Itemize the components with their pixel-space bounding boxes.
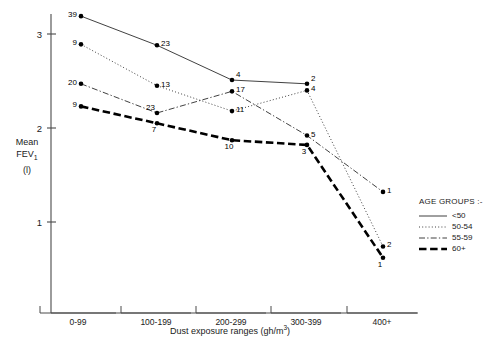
data-point	[155, 111, 160, 116]
data-point	[305, 88, 310, 93]
data-point	[79, 42, 84, 47]
data-point-label: 7	[152, 125, 157, 134]
data-point-label: 23	[161, 39, 170, 48]
data-point-label: 4	[311, 84, 316, 93]
series-line-60+	[81, 106, 383, 257]
data-point-label: 2	[387, 240, 392, 249]
data-point-label: 9	[73, 100, 78, 109]
legend-label: 50-54	[452, 222, 472, 231]
data-point-label: 9	[73, 38, 78, 47]
x-axis-label: Dust exposure ranges (gh/m3)	[100, 324, 360, 336]
legend-label: <50	[452, 211, 466, 220]
x-category-label: 0-99	[69, 317, 86, 327]
x-category-label: 400+	[372, 317, 391, 327]
data-point	[79, 82, 84, 87]
y-tick-label: 2	[37, 123, 42, 134]
y-axis-label-line2: FEV1	[6, 148, 48, 164]
legend-label: 60+	[452, 244, 466, 253]
y-axis-label-line1: Mean	[6, 136, 48, 148]
y-tick-label: 3	[37, 29, 42, 40]
legend-item-<50[interactable]: <50	[419, 210, 483, 221]
data-point	[230, 89, 235, 94]
series-line-55-59	[81, 84, 383, 192]
legend: AGE GROUPS :- <5050-5455-5960+	[419, 197, 483, 254]
y-tick-label: 1	[37, 217, 42, 228]
data-point	[230, 78, 235, 83]
data-point	[305, 133, 310, 138]
legend-title: AGE GROUPS :-	[419, 197, 483, 206]
legend-item-55-59[interactable]: 55-59	[419, 232, 483, 243]
data-point-label: 17	[236, 85, 245, 94]
x-bracket	[121, 306, 191, 313]
x-bracket	[347, 306, 417, 313]
x-axis	[40, 306, 418, 313]
x-axis-label-text: Dust exposure ranges (gh/m	[170, 326, 284, 336]
x-axis-label-close: )	[287, 326, 290, 336]
data-point	[305, 82, 310, 87]
data-point-label: 4	[236, 70, 241, 79]
legend-key-dash-dot	[419, 234, 447, 242]
series-line-<50	[81, 16, 307, 84]
data-point-label: 1	[378, 260, 383, 269]
x-axis-brackets	[40, 306, 417, 313]
legend-item-60+[interactable]: 60+	[419, 243, 483, 254]
data-series-group: 392342913114220231751971031	[68, 10, 392, 269]
data-point-label: 13	[161, 80, 170, 89]
legend-key-dotted	[419, 223, 447, 231]
data-point-label: 3	[302, 147, 307, 156]
data-point-label: 23	[146, 103, 155, 112]
legend-label: 55-59	[452, 233, 472, 242]
data-point	[79, 14, 84, 19]
data-point-label: 10	[225, 142, 234, 151]
legend-key-thick-dashed	[419, 245, 447, 253]
x-bracket	[196, 306, 266, 313]
y-axis-label-line3: (l)	[6, 164, 48, 176]
chart-container: 123 392342913114220231751971031 0-99100-…	[0, 0, 489, 344]
data-point-label: 39	[68, 10, 77, 19]
y-axis-label: Mean FEV1 (l)	[6, 136, 48, 176]
legend-item-50-54[interactable]: 50-54	[419, 221, 483, 232]
y-axis-ticks: 123	[37, 29, 56, 228]
data-point	[155, 83, 160, 88]
legend-key-solid	[419, 212, 447, 220]
data-point-label: 1	[387, 186, 392, 195]
data-point	[79, 104, 84, 109]
data-point-label: 20	[68, 78, 77, 87]
legend-items: <5050-5455-5960+	[419, 210, 483, 254]
data-point-label: 11	[236, 105, 245, 114]
line-chart-svg: 123 392342913114220231751971031 0-99100-…	[0, 0, 489, 344]
data-point	[155, 43, 160, 48]
data-point	[230, 109, 235, 114]
data-point-label: 2	[311, 74, 316, 83]
data-point	[381, 190, 386, 195]
data-point-label: 5	[311, 130, 316, 139]
data-point	[381, 244, 386, 249]
x-bracket	[271, 306, 341, 313]
